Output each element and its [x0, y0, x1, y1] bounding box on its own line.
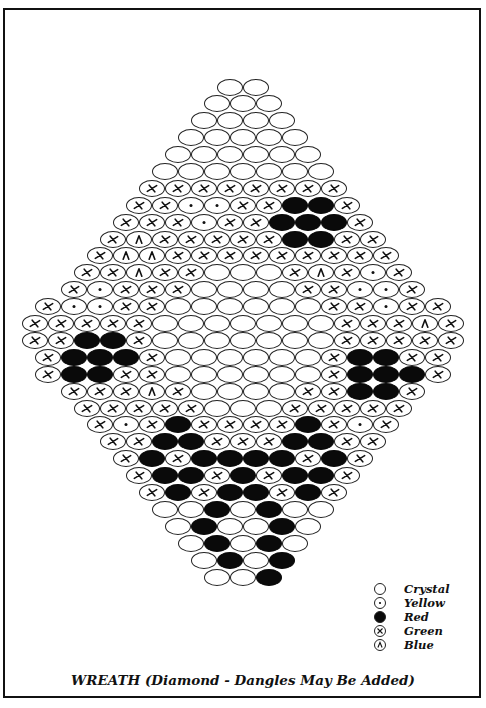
blue-bead — [113, 247, 139, 264]
green-bead — [74, 315, 100, 332]
green-bead — [126, 467, 152, 484]
green-bead — [178, 264, 204, 281]
crystal-bead — [243, 79, 269, 96]
green-bead — [139, 484, 165, 501]
green-bead — [100, 315, 126, 332]
green-bead — [139, 366, 165, 383]
red-bead — [256, 535, 282, 552]
crystal-bead — [191, 146, 217, 163]
green-bead — [321, 247, 347, 264]
crystal-bead — [191, 349, 217, 366]
crystal-bead — [204, 332, 230, 349]
crystal-bead — [269, 281, 295, 298]
crystal-bead — [217, 112, 243, 129]
green-bead — [35, 298, 61, 315]
crystal-bead — [269, 112, 295, 129]
green-bead — [113, 281, 139, 298]
red-bead — [217, 450, 243, 467]
green-bead — [74, 264, 100, 281]
green-bead — [165, 214, 191, 231]
red-bead — [165, 484, 191, 501]
red-bead — [178, 433, 204, 450]
green-bead — [230, 197, 256, 214]
crystal-bead — [295, 349, 321, 366]
green-bead — [256, 231, 282, 248]
crystal-bead — [230, 315, 256, 332]
green-bead — [217, 214, 243, 231]
blue-bead — [126, 231, 152, 248]
green-bead — [217, 416, 243, 433]
green-bead — [230, 231, 256, 248]
green-bead — [217, 247, 243, 264]
red-bead — [230, 467, 256, 484]
crystal-bead — [191, 112, 217, 129]
green-bead — [282, 264, 308, 281]
crystal-bead — [204, 569, 230, 586]
red-bead — [308, 467, 334, 484]
crystal-bead — [256, 315, 282, 332]
crystal-bead — [217, 383, 243, 400]
legend-item-red: Red — [374, 610, 450, 624]
crystal-bead — [243, 518, 269, 535]
green-bead — [295, 281, 321, 298]
green-bead — [113, 366, 139, 383]
crystal-bead — [282, 332, 308, 349]
green-bead — [22, 315, 48, 332]
red-bead — [269, 214, 295, 231]
yellow-bead — [360, 264, 386, 281]
red-bead — [243, 450, 269, 467]
green-bead — [386, 264, 412, 281]
green-bead — [35, 366, 61, 383]
red-bead — [308, 197, 334, 214]
green-bead — [334, 315, 360, 332]
red-bead — [282, 197, 308, 214]
crystal-bead — [204, 129, 230, 146]
crystal-bead — [191, 383, 217, 400]
red-bead — [87, 366, 113, 383]
green-bead — [152, 231, 178, 248]
crystal-bead — [256, 95, 282, 112]
green-bead — [191, 416, 217, 433]
red-bead — [256, 569, 282, 586]
crystal-bead — [243, 146, 269, 163]
green-bead — [35, 349, 61, 366]
crystal-bead — [269, 366, 295, 383]
legend-label: Crystal — [404, 582, 450, 596]
green-bead — [399, 281, 425, 298]
green-bead — [334, 400, 360, 417]
red-bead — [243, 484, 269, 501]
green-bead — [334, 264, 360, 281]
crystal-bead — [191, 298, 217, 315]
green-bead — [191, 180, 217, 197]
crystal-bead — [230, 501, 256, 518]
crystal-bead — [165, 146, 191, 163]
green-bead — [178, 400, 204, 417]
green-bead — [386, 315, 412, 332]
red-bead — [152, 433, 178, 450]
filled-circle-icon — [374, 611, 386, 623]
green-bead — [191, 247, 217, 264]
crystal-bead — [295, 518, 321, 535]
red-bead — [308, 433, 334, 450]
yellow-bead — [178, 197, 204, 214]
red-bead — [100, 332, 126, 349]
crystal-bead — [256, 332, 282, 349]
green-bead — [399, 383, 425, 400]
green-bead — [139, 180, 165, 197]
legend: CrystalYellowRedGreenBlue — [374, 582, 450, 652]
green-bead — [321, 416, 347, 433]
red-bead — [178, 467, 204, 484]
crystal-bead — [204, 163, 230, 180]
red-bead — [217, 552, 243, 569]
green-bead — [321, 383, 347, 400]
yellow-bead — [373, 281, 399, 298]
red-bead — [204, 535, 230, 552]
caret-circle-icon — [374, 639, 386, 651]
green-bead — [386, 332, 412, 349]
red-bead — [139, 450, 165, 467]
red-bead — [308, 231, 334, 248]
green-bead — [243, 180, 269, 197]
green-bead — [360, 433, 386, 450]
blue-bead — [308, 264, 334, 281]
green-bead — [386, 400, 412, 417]
